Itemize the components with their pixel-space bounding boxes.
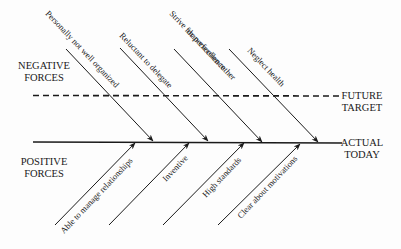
negative-force-label-3: Strive for perfection rather than excell… bbox=[168, 8, 239, 82]
actual-today-line bbox=[33, 142, 342, 143]
positive-label-line1: POSITIVE bbox=[21, 156, 68, 167]
actual-label-line1: ACTUAL bbox=[341, 137, 384, 148]
positive-label-line2: FORCES bbox=[24, 168, 64, 179]
positive-force-label-3: High standards bbox=[200, 154, 243, 199]
actual-today-label: ACTUAL TODAY bbox=[341, 137, 384, 160]
negative-force-label-3-line2: than excellence bbox=[185, 26, 229, 72]
positive-arrow-4 bbox=[218, 144, 300, 225]
force-field-diagram: NEGATIVE FORCES POSITIVE FORCES FUTURE T… bbox=[0, 0, 401, 249]
negative-forces-heading: NEGATIVE FORCES bbox=[18, 60, 70, 83]
positive-arrow-2 bbox=[109, 143, 189, 225]
negative-force-labels: Personally not well organized Reluctant … bbox=[44, 8, 288, 90]
positive-arrow-3 bbox=[163, 143, 244, 225]
positive-force-label-4: Clear about motivations bbox=[235, 153, 300, 220]
positive-forces-heading: POSITIVE FORCES bbox=[21, 156, 68, 179]
future-label-line1: FUTURE bbox=[342, 90, 383, 101]
actual-label-line2: TODAY bbox=[344, 149, 380, 160]
negative-label-line1: NEGATIVE bbox=[18, 60, 70, 71]
positive-force-labels: Able to manage relationships Inventive H… bbox=[58, 153, 300, 236]
future-target-line bbox=[33, 96, 340, 97]
future-target-label: FUTURE TARGET bbox=[342, 90, 383, 113]
negative-force-label-4: Neglect health bbox=[246, 45, 288, 89]
negative-force-label-2: Reluctant to delegate bbox=[118, 30, 175, 90]
future-label-line2: TARGET bbox=[342, 102, 383, 113]
negative-arrow-2 bbox=[120, 48, 208, 141]
negative-arrow-1 bbox=[66, 49, 153, 141]
negative-label-line2: FORCES bbox=[24, 72, 64, 83]
positive-force-label-1: Able to manage relationships bbox=[58, 155, 135, 235]
